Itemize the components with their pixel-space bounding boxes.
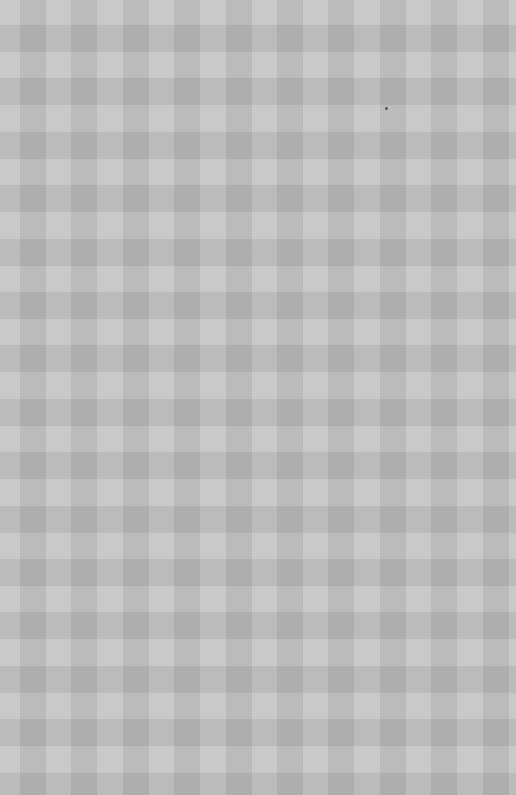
horizontal-stripes [0, 0, 516, 795]
dust-speck [385, 107, 388, 110]
gingham-texture: Gray gingham checkered paper texture [0, 0, 516, 795]
